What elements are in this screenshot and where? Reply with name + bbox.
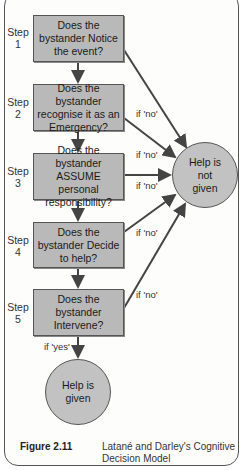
edge-label-no-4: if 'no' bbox=[136, 227, 158, 238]
step-3-label: Step 3 bbox=[6, 165, 30, 189]
step-number: 2 bbox=[6, 108, 30, 120]
step-2-label: Step 2 bbox=[6, 96, 30, 120]
edge-label-no-3a: if 'no' bbox=[136, 149, 158, 160]
step-number: 5 bbox=[6, 313, 30, 325]
step-number: 4 bbox=[6, 246, 30, 258]
step-number: 1 bbox=[6, 38, 30, 50]
edge-label-no-3b: if 'no' bbox=[136, 180, 158, 191]
decision-box-responsibility: Does the bystander ASSUME personal respo… bbox=[33, 153, 124, 200]
outcome-help-given-text: Help is given bbox=[58, 379, 98, 405]
step-word: Step bbox=[6, 301, 30, 313]
step-5-label: Step 5 bbox=[6, 301, 30, 325]
step-word: Step bbox=[6, 165, 30, 177]
step-1-label: Step 1 bbox=[6, 26, 30, 50]
outcome-help-given: Help is given bbox=[45, 359, 111, 425]
decision-box-intervene: Does the bystander Intervene? bbox=[33, 289, 124, 336]
edge-label-no-5: if 'no' bbox=[136, 289, 158, 300]
step-number: 3 bbox=[6, 177, 30, 189]
step-word: Step bbox=[6, 26, 30, 38]
decision-box-decide: Does the bystander Decide to help? bbox=[33, 222, 124, 268]
edge-label-yes: if 'yes' bbox=[44, 341, 70, 352]
outcome-help-not-given: Help is not given bbox=[172, 142, 238, 208]
edge-label-no-2: if 'no' bbox=[136, 108, 158, 119]
outcome-help-not-given-text: Help is not given bbox=[186, 156, 224, 195]
figure-number: Figure 2.11 bbox=[20, 441, 72, 453]
figure-caption-text: Latané and Darley's Cognitive Decision M… bbox=[102, 441, 242, 465]
step-word: Step bbox=[6, 96, 30, 108]
step-word: Step bbox=[6, 234, 30, 246]
decision-box-notice: Does the bystander Notice the event? bbox=[33, 15, 124, 62]
decision-box-emergency: Does the bystander recognise it as an Em… bbox=[33, 84, 124, 131]
step-4-label: Step 4 bbox=[6, 234, 30, 258]
